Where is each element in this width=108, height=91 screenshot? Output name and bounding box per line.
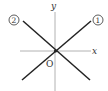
x-axis-label: x bbox=[92, 46, 97, 56]
diagram-canvas: y x O 1 2 bbox=[0, 0, 108, 91]
coordinate-diagram: y x O 1 2 bbox=[0, 0, 108, 91]
line-1-number: 1 bbox=[96, 16, 101, 25]
y-axis-label: y bbox=[50, 1, 57, 11]
line-2-label: 2 bbox=[9, 15, 19, 25]
line-1-label: 1 bbox=[93, 15, 103, 25]
origin-point bbox=[54, 49, 57, 52]
origin-label: O bbox=[46, 59, 53, 69]
line-2-number: 2 bbox=[12, 16, 17, 25]
